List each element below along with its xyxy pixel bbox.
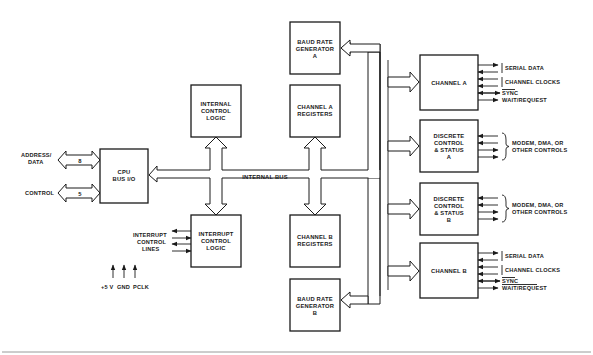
serial-data-b-label: SERIAL DATA bbox=[505, 253, 544, 259]
block-label: REGISTERS bbox=[297, 111, 332, 117]
address-data-label: ADDRESS/ bbox=[21, 152, 52, 158]
block-label: DISCRETE bbox=[434, 133, 465, 139]
block-label: A bbox=[447, 154, 452, 160]
block-label: BAUD RATE bbox=[297, 296, 333, 302]
block-label: LOGIC bbox=[206, 245, 226, 251]
block-label: CONTROL bbox=[434, 140, 464, 146]
block-label: CHANNEL B bbox=[297, 234, 333, 240]
other-controls-b-label: OTHER CONTROLS bbox=[512, 209, 567, 215]
block-label: CPU bbox=[118, 169, 131, 175]
interrupt-control-lines: INTERRUPT CONTROL LINES bbox=[133, 231, 191, 252]
discrete-b-signals: MODEM, DMA, OR OTHER CONTROLS bbox=[478, 195, 567, 222]
block-diagram: 8 ADDRESS/ DATA 5 CONTROL INTERNAL BU bbox=[0, 0, 593, 355]
interrupt-control-logic-block: INTERRUPT CONTROL LOGIC bbox=[191, 215, 241, 267]
address-data-bus-arrow: 8 bbox=[58, 151, 100, 169]
channel-distribution-bus bbox=[380, 52, 419, 296]
modem-dma-a-label: MODEM, DMA, OR bbox=[512, 140, 564, 146]
internal-bus bbox=[149, 42, 380, 215]
channel-a-signals: SERIAL DATA CHANNEL CLOCKS SYNC WAIT/REQ… bbox=[478, 63, 560, 103]
block-label: CONTROL bbox=[434, 203, 464, 209]
interrupt-lines-label: LINES bbox=[142, 246, 160, 252]
block-label: & STATUS bbox=[434, 147, 464, 153]
block-label: CONTROL bbox=[201, 238, 231, 244]
control-bus-arrow: 5 bbox=[58, 184, 100, 202]
channel-b-block: CHANNEL B bbox=[420, 243, 478, 298]
baud-rate-generator-a-block: BAUD RATE GENERATOR A bbox=[290, 22, 340, 74]
block-label: CONTROL bbox=[201, 108, 231, 114]
internal-control-logic-block: INTERNAL CONTROL LOGIC bbox=[191, 85, 241, 137]
block-label: CHANNEL A bbox=[431, 80, 467, 86]
wait-request-a-label: WAIT/REQUEST bbox=[502, 97, 547, 103]
channel-clocks-b-label: CHANNEL CLOCKS bbox=[505, 267, 560, 273]
interrupt-lines-label: CONTROL bbox=[137, 239, 166, 245]
block-label: A bbox=[313, 53, 318, 59]
address-data-label-2: DATA bbox=[28, 159, 44, 165]
discrete-control-status-a-block: DISCRETE CONTROL & STATUS A bbox=[420, 120, 478, 172]
block-label: INTERRUPT bbox=[199, 231, 234, 237]
block-label: DISCRETE bbox=[434, 196, 465, 202]
baud-rate-generator-b-block: BAUD RATE GENERATOR B bbox=[290, 279, 340, 331]
wait-request-b-label: WAIT/REQUEST bbox=[502, 285, 547, 291]
discrete-a-signals: MODEM, DMA, OR OTHER CONTROLS bbox=[478, 133, 567, 160]
block-label: BAUD RATE bbox=[297, 39, 333, 45]
block-label: CHANNEL B bbox=[431, 268, 467, 274]
channel-clocks-a-label: CHANNEL CLOCKS bbox=[505, 79, 560, 85]
other-controls-a-label: OTHER CONTROLS bbox=[512, 147, 567, 153]
channel-a-registers-block: CHANNEL A REGISTERS bbox=[290, 85, 340, 137]
block-label: GENERATOR bbox=[296, 303, 335, 309]
address-data-width: 8 bbox=[78, 158, 82, 164]
control-label: CONTROL bbox=[25, 190, 54, 196]
serial-data-a-label: SERIAL DATA bbox=[505, 65, 544, 71]
block-label: B bbox=[313, 310, 317, 316]
sync-b-label: SYNC bbox=[502, 278, 518, 284]
block-label: B bbox=[447, 217, 451, 223]
discrete-control-status-b-block: DISCRETE CONTROL & STATUS B bbox=[420, 183, 478, 235]
channel-a-block: CHANNEL A bbox=[420, 55, 478, 110]
block-label: BUS I/O bbox=[113, 176, 136, 182]
internal-bus-label: INTERNAL BUS bbox=[242, 174, 287, 180]
power-pin-gnd: GND bbox=[117, 284, 130, 290]
channel-b-signals: SERIAL DATA CHANNEL CLOCKS SYNC WAIT/REQ… bbox=[478, 251, 560, 291]
modem-dma-b-label: MODEM, DMA, OR bbox=[512, 202, 564, 208]
control-width: 5 bbox=[78, 191, 82, 197]
cpu-bus-io-block: CPU BUS I/O bbox=[100, 149, 148, 203]
block-label: CHANNEL A bbox=[297, 104, 333, 110]
block-label: & STATUS bbox=[434, 210, 464, 216]
diagram-svg: 8 ADDRESS/ DATA 5 CONTROL INTERNAL BU bbox=[0, 0, 593, 355]
block-label: INTERNAL bbox=[201, 101, 232, 107]
sync-a-label: SYNC bbox=[502, 90, 518, 96]
power-pins: +5 V GND PCLK bbox=[101, 265, 149, 290]
block-label: LOGIC bbox=[206, 115, 226, 121]
power-pin-pclk: PCLK bbox=[133, 284, 149, 290]
channel-b-registers-block: CHANNEL B REGISTERS bbox=[290, 215, 340, 267]
block-label: REGISTERS bbox=[297, 241, 332, 247]
block-label: GENERATOR bbox=[296, 46, 335, 52]
power-pin-5v: +5 V bbox=[101, 284, 114, 290]
interrupt-lines-label: INTERRUPT bbox=[133, 232, 167, 238]
